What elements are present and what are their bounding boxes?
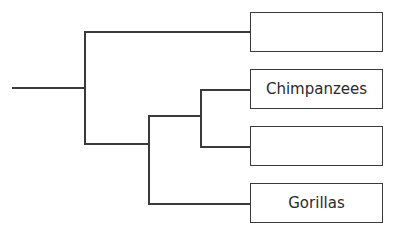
leaf-box-chimpanzees[interactable]: Chimpanzees xyxy=(250,69,383,109)
node-3-vertical xyxy=(200,89,202,147)
node-2-vertical xyxy=(148,115,150,204)
branch-node-3 xyxy=(148,115,201,117)
leaf-box-1[interactable] xyxy=(250,12,383,52)
branch-leaf-1 xyxy=(84,31,250,33)
leaf-label-4: Gorillas xyxy=(288,194,344,212)
branch-leaf-2 xyxy=(200,89,250,91)
root-branch xyxy=(12,87,85,89)
leaf-box-gorillas[interactable]: Gorillas xyxy=(250,183,383,223)
branch-leaf-3 xyxy=(200,146,250,148)
root-node-vertical xyxy=(84,31,86,144)
leaf-box-3[interactable] xyxy=(250,126,383,166)
branch-leaf-4 xyxy=(148,203,250,205)
branch-node-2 xyxy=(84,143,149,145)
leaf-label-2: Chimpanzees xyxy=(266,80,367,98)
